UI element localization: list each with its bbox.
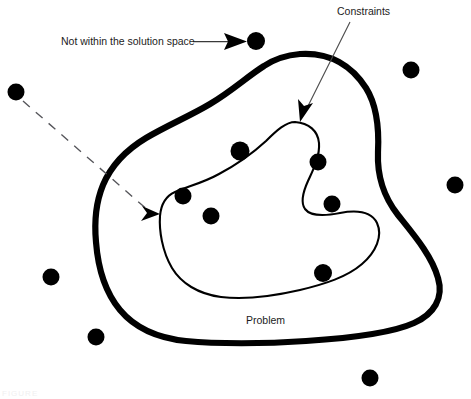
label-not-within-solution-space: Not within the solution space <box>61 35 195 47</box>
dot-inner-bottom <box>314 264 332 282</box>
dot-inner-left <box>203 208 220 225</box>
dot-outside-left-upper <box>8 84 25 101</box>
dot-outside-right-mid <box>447 177 464 194</box>
dot-inner-upper-right <box>310 154 327 171</box>
solution-space-boundary <box>95 54 439 343</box>
dot-inner-right <box>324 196 341 213</box>
solution-space-diagram: Not within the solution space Constraint… <box>0 0 471 399</box>
problem-space-boundary <box>160 122 379 298</box>
constraints-arrowhead <box>298 99 313 122</box>
label-constraints: Constraints <box>337 5 390 17</box>
dot-outside-bottom-left <box>88 329 105 346</box>
dot-outside-right-upper <box>403 62 420 79</box>
bottom-caption-fragment: FIGURE <box>2 389 38 398</box>
dashed-pointer-line <box>23 101 150 212</box>
dot-outside-bottom-right <box>362 370 379 387</box>
dot-outside-top <box>247 32 265 50</box>
label-problem: Problem <box>246 314 285 326</box>
diagram-canvas: Not within the solution space Constraint… <box>0 0 471 399</box>
dot-outside-left-lower <box>43 269 60 286</box>
dot-boundary-top <box>231 142 250 161</box>
dot-boundary-left <box>175 188 192 205</box>
dashed-pointer-arrowhead <box>141 206 160 221</box>
